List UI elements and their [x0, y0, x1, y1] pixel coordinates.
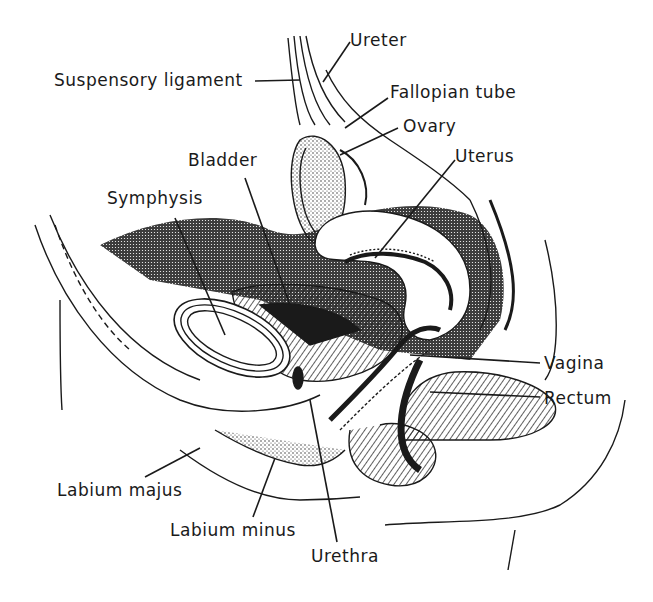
label-labium-majus: Labium majus	[57, 482, 182, 499]
label-symphysis: Symphysis	[107, 190, 203, 207]
label-rectum: Rectum	[544, 390, 612, 407]
perineum-shape	[349, 424, 436, 486]
label-vagina: Vagina	[544, 355, 604, 372]
label-ovary: Ovary	[403, 118, 456, 135]
label-urethra: Urethra	[311, 548, 379, 565]
label-ureter: Ureter	[350, 32, 407, 49]
label-uterus: Uterus	[455, 148, 514, 165]
label-bladder: Bladder	[188, 152, 257, 169]
labia-shape	[215, 430, 345, 466]
label-suspensory-ligament: Suspensory ligament	[54, 72, 243, 89]
label-fallopian-tube: Fallopian tube	[390, 84, 516, 101]
anatomy-drawing	[0, 0, 653, 602]
label-labium-minus: Labium minus	[170, 522, 296, 539]
